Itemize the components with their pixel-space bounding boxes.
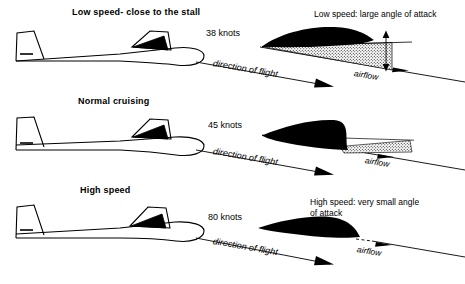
glider-high-speed bbox=[16, 205, 204, 241]
speed-label-high-speed: 80 knots bbox=[208, 212, 242, 222]
caption-low-speed: Low speed: large angle of attack bbox=[314, 9, 464, 20]
panel-title-normal-cruising: Normal cruising bbox=[78, 96, 150, 106]
aerodynamics-diagram: Low speed- close to the stall 38 knots L… bbox=[0, 0, 465, 284]
speed-label-low-speed: 38 knots bbox=[206, 28, 240, 38]
caption-high-speed-line-1: High speed: very small angle bbox=[310, 197, 450, 208]
panel-title-low-speed: Low speed- close to the stall bbox=[72, 7, 200, 17]
glider-low-speed bbox=[16, 31, 204, 66]
speed-label-normal-cruising: 45 knots bbox=[208, 120, 242, 130]
caption-high-speed: High speed: very small angle of attack bbox=[310, 197, 450, 218]
caption-high-speed-line-2: of attack bbox=[310, 208, 450, 219]
panel-title-high-speed: High speed bbox=[80, 185, 131, 195]
glider-normal-cruising bbox=[16, 117, 204, 156]
angle-of-attack-wedge-normal-cruising bbox=[340, 141, 412, 154]
panel-low-speed bbox=[16, 27, 465, 88]
aerofoil-normal-cruising bbox=[262, 120, 348, 150]
aerofoil-high-speed bbox=[258, 217, 360, 238]
